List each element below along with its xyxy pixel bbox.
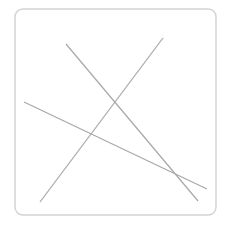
line-2 [40, 38, 163, 202]
lines-group [24, 38, 207, 202]
line-1 [66, 44, 198, 201]
line-3 [24, 102, 207, 189]
line-diagram [0, 0, 234, 228]
